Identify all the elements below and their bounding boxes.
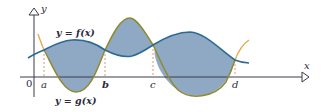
point-c-label: c	[150, 79, 156, 90]
point-a-label: a	[41, 79, 47, 90]
x-axis-arrow-icon	[302, 72, 309, 82]
origin-label: 0	[26, 78, 32, 89]
g-curve-left-tail	[38, 34, 44, 50]
g-curve-right-tail	[235, 40, 249, 60]
point-d-label: d	[232, 79, 238, 90]
area-between-curves-diagram: y x 0 a b c d y = f(x) y = g(x)	[0, 0, 326, 112]
g-curve-label: y = g(x)	[54, 95, 96, 106]
f-curve-label: y = f(x)	[55, 27, 95, 38]
y-axis-label: y	[40, 3, 47, 14]
x-axis-label: x	[304, 60, 310, 71]
y-axis-arrow-icon	[29, 8, 39, 15]
point-b-label: b	[102, 79, 109, 90]
